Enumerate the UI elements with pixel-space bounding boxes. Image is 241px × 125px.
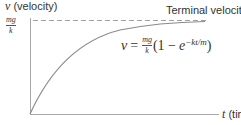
terminal-velocity-label: Terminal velocity [166, 5, 241, 16]
x-axis-variable: t [222, 107, 225, 121]
velocity-equation: v = mg k (1 − e −kt/m ) [121, 36, 211, 55]
x-axis-label: t (tim [222, 108, 241, 120]
equation-close: ) [207, 38, 212, 54]
y-axis-label: v (velocity) [5, 0, 57, 12]
equation-exponent: −kt/m [185, 37, 207, 47]
equation-open: (1 − [153, 38, 176, 54]
equation-lhs: v [121, 38, 127, 54]
x-axis-text: (tim [228, 108, 241, 120]
mgk-denominator: k [9, 27, 13, 35]
y-axis-variable: v [5, 0, 10, 13]
plot-area [0, 0, 241, 125]
terminal-velocity-value-label: mg k [6, 16, 16, 35]
mgk-numerator: mg [6, 16, 16, 24]
velocity-time-diagram: v (velocity) mg k Terminal velocity v = … [0, 0, 241, 125]
equation-fraction: mg k [142, 36, 152, 55]
equation-denominator: k [145, 47, 149, 55]
equation-equals: = [130, 38, 138, 54]
y-axis-text: (velocity) [13, 0, 57, 12]
equation-numerator: mg [142, 36, 152, 44]
